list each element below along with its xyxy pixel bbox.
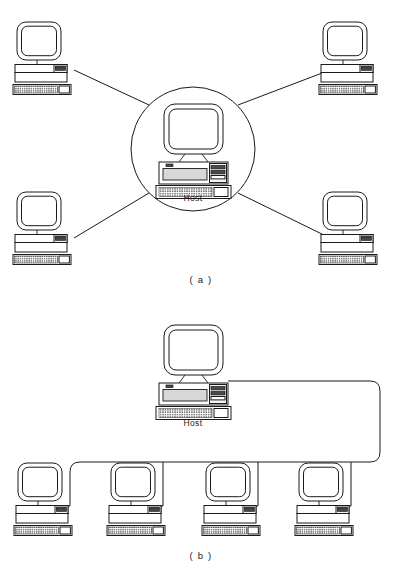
host-label-a: Host xyxy=(183,193,202,203)
host-computer-a xyxy=(156,104,231,199)
caption-a: ( a ) xyxy=(190,274,213,285)
diagram-canvas: Host ( a ) xyxy=(0,0,403,575)
host-label-b: Host xyxy=(183,418,202,428)
network-topology-figure: Host ( a ) xyxy=(0,0,403,575)
caption-b: ( b ) xyxy=(190,550,213,561)
host-computer-b xyxy=(156,325,231,420)
